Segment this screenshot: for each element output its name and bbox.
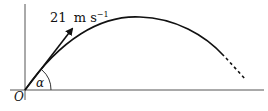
velocity-label: 21 m s−1 <box>50 10 109 25</box>
trajectory-dashed-continuation <box>226 58 246 80</box>
velocity-arrow <box>25 29 72 90</box>
projectile-diagram: 21 m s−1 α O <box>0 0 268 111</box>
origin-label: O <box>14 90 24 104</box>
trajectory-curve <box>25 17 224 90</box>
angle-label: α <box>36 76 44 90</box>
